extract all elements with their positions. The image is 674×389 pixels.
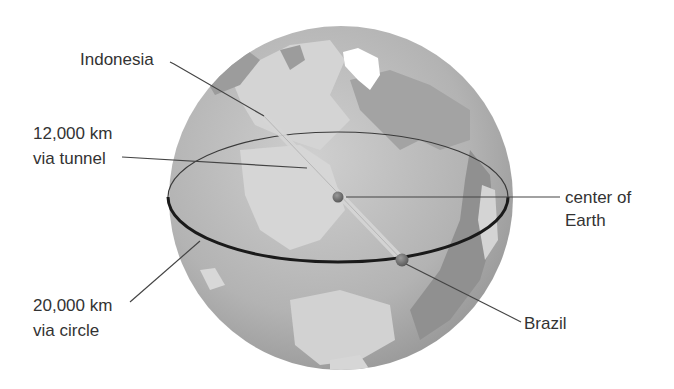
center-line2: Earth (565, 209, 631, 232)
center-of-earth-dot (333, 192, 344, 203)
center-of-earth-label: center of Earth (565, 186, 631, 232)
circle-distance-value: 20,000 km (33, 293, 112, 318)
tunnel-distance-caption: via tunnel (33, 146, 112, 171)
circle-distance-caption: via circle (33, 318, 112, 343)
brazil-dot (396, 254, 409, 267)
circle-distance-label: 20,000 km via circle (33, 293, 112, 343)
center-line1: center of (565, 186, 631, 209)
tunnel-distance-label: 12,000 km via tunnel (33, 121, 112, 171)
indonesia-label: Indonesia (80, 50, 154, 70)
brazil-label: Brazil (524, 314, 567, 334)
brazil-text: Brazil (524, 314, 567, 334)
tunnel-distance-value: 12,000 km (33, 121, 112, 146)
indonesia-text: Indonesia (80, 50, 154, 70)
